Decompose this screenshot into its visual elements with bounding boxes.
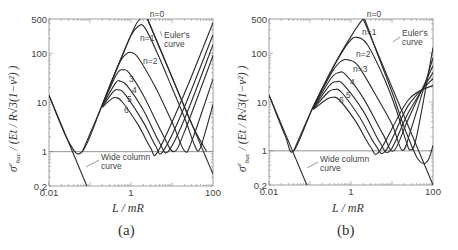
y-tick-label: 100 (31, 48, 47, 59)
panel-a: 0.0111000.2110100500n=0n=1n=23456Euler's… (0, 0, 229, 250)
label-n5: 5 (127, 94, 132, 104)
label-euler-curve-2: curve (164, 39, 185, 49)
y-tick-label: 1 (42, 146, 47, 157)
x-axis-label-b: L / mR (332, 201, 364, 216)
panel-b: 0.0111000.2110100500n=0n=1n=2n=3456Euler… (229, 0, 458, 250)
label-n2: n=2 (143, 56, 158, 66)
label-euler-curve-2: curve (402, 37, 423, 47)
label-n0: n=0 (367, 9, 382, 19)
label-n4: 4 (132, 85, 137, 95)
y-tick-label: 10 (36, 97, 47, 108)
label-n1: n=1 (140, 33, 155, 43)
label-n2: n=2 (356, 49, 371, 59)
caption-a: (a) (118, 222, 135, 239)
caption-b: (b) (337, 222, 355, 239)
x-tick-label: 100 (425, 186, 441, 197)
y-tick-label: 10 (256, 97, 267, 108)
x-tick-label: 1 (128, 187, 133, 198)
series-wide-column-curve (269, 95, 307, 185)
y-tick-label: 0.2 (34, 181, 47, 192)
series-n-3 (313, 66, 433, 151)
label-n4: 4 (350, 77, 355, 87)
y-tick-label: 500 (251, 14, 267, 25)
x-tick-label: 1 (348, 186, 353, 197)
series-n-2 (102, 52, 213, 152)
y-tick-label: 500 (31, 14, 47, 25)
series-wide-column-curve (49, 95, 87, 186)
y-axis-label-b: σebuc / (Et / R√3(1−ν²) ) (235, 66, 251, 172)
x-tick-label: 100 (205, 187, 221, 198)
y-tick-label: 100 (251, 48, 267, 59)
series-n-1 (82, 25, 213, 152)
label-wide-column-curve-2: curve (320, 163, 341, 173)
y-tick-label: 0.2 (254, 180, 267, 191)
label-n3: 3 (129, 74, 134, 84)
label-wide-column-curve-2: curve (101, 161, 122, 171)
x-axis-label-a: L / mR (112, 201, 144, 216)
label-n6: 6 (339, 95, 344, 105)
label-n3: n=3 (353, 64, 368, 74)
label-n1: n=1 (362, 27, 377, 37)
series-n-3 (102, 56, 213, 152)
label-n0: n=0 (150, 9, 165, 19)
label-n6: 6 (124, 105, 129, 115)
label-n5: 5 (346, 90, 351, 100)
y-axis-label-a: σebuc / (Et / R√3(1−ν²) ) (6, 66, 22, 172)
y-tick-label: 1 (262, 145, 267, 156)
